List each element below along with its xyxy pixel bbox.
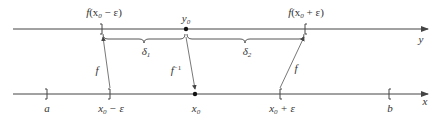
label-f-x0-minus-eps: f(x0 − ε): [86, 7, 122, 20]
delta1-brace: [103, 34, 185, 43]
y-axis: [13, 24, 428, 34]
label-arrow-f-right: f: [294, 63, 297, 74]
delta2-brace: [187, 34, 304, 43]
label-delta1: δ1: [142, 46, 151, 59]
label-y0: y0: [182, 13, 190, 26]
label-x0: x0: [192, 103, 200, 116]
x-axis: [13, 89, 428, 99]
label-b: b: [387, 103, 393, 114]
label-f-x0-plus-eps: f(x0 + ε): [288, 7, 324, 20]
mapping-arrows: [103, 37, 304, 89]
delta-braces: [103, 34, 304, 43]
label-y-axis: y: [419, 34, 424, 45]
diagram-canvas: [0, 0, 435, 120]
arrow-f-inverse: [186, 37, 195, 89]
label-x-axis: x: [423, 96, 428, 107]
label-a: a: [44, 103, 50, 114]
x0-dot: [193, 92, 197, 96]
label-delta2: δ2: [243, 46, 252, 59]
label-arrow-f-inverse: f−1: [171, 65, 182, 76]
epsilon-delta-diagram: f(x0 − ε) y0 f(x0 + ε) y δ1 δ2 f f−1 f a…: [0, 0, 435, 120]
y0-dot: [184, 27, 188, 31]
label-x0-minus-eps: x0 − ε: [98, 103, 124, 116]
arrow-f-left: [103, 37, 110, 88]
label-arrow-f-left: f: [95, 65, 98, 76]
label-x0-plus-eps: x0 + ε: [269, 103, 295, 116]
arrow-f-right: [280, 37, 304, 88]
